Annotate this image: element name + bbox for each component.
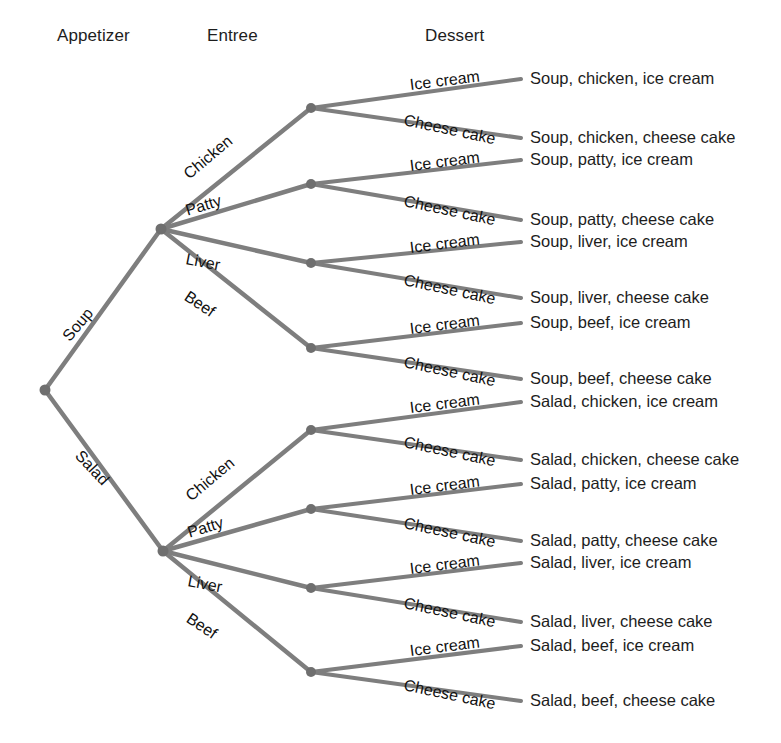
- outcome-label-1: Soup, chicken, ice cream: [530, 70, 714, 87]
- outcome-label-13: Salad, liver, ice cream: [530, 554, 691, 571]
- node-layer: [40, 103, 317, 677]
- column-header-dessert: Dessert: [425, 26, 484, 46]
- entree-hub-salad: [158, 546, 169, 557]
- outcome-label-2: Soup, chicken, cheese cake: [530, 129, 735, 146]
- entree-node-salad-beef: [306, 667, 316, 677]
- entree-branch-soup-patty: [161, 184, 311, 229]
- entree-node-salad-liver: [306, 583, 316, 593]
- entree-node-soup-beef: [306, 343, 316, 353]
- root-node: [40, 385, 51, 396]
- entree-hub-soup: [156, 224, 167, 235]
- entree-node-soup-liver: [306, 258, 316, 268]
- outcome-label-14: Salad, liver, cheese cake: [530, 613, 713, 630]
- outcome-label-9: Salad, chicken, ice cream: [530, 393, 718, 410]
- outcome-label-4: Soup, patty, cheese cake: [530, 211, 714, 228]
- outcome-label-8: Soup, beef, cheese cake: [530, 370, 712, 387]
- entree-node-salad-chicken: [306, 425, 316, 435]
- outcome-label-5: Soup, liver, ice cream: [530, 233, 688, 250]
- outcome-label-6: Soup, liver, cheese cake: [530, 289, 709, 306]
- outcome-label-15: Salad, beef, ice cream: [530, 637, 694, 654]
- outcome-label-7: Soup, beef, ice cream: [530, 314, 691, 331]
- entree-node-soup-chicken: [306, 103, 316, 113]
- outcome-label-11: Salad, patty, ice cream: [530, 475, 697, 492]
- entree-node-salad-patty: [306, 504, 316, 514]
- tree-diagram: AppetizerEntreeDessert SoupChickenIce cr…: [0, 0, 781, 743]
- outcome-label-12: Salad, patty, cheese cake: [530, 532, 718, 549]
- entree-node-soup-patty: [306, 179, 316, 189]
- appetizer-branch-soup: [45, 229, 161, 390]
- outcome-label-16: Salad, beef, cheese cake: [530, 692, 715, 709]
- column-header-appetizer: Appetizer: [57, 26, 130, 46]
- column-header-entree: Entree: [207, 26, 258, 46]
- outcome-label-3: Soup, patty, ice cream: [530, 151, 693, 168]
- outcome-label-10: Salad, chicken, cheese cake: [530, 451, 739, 468]
